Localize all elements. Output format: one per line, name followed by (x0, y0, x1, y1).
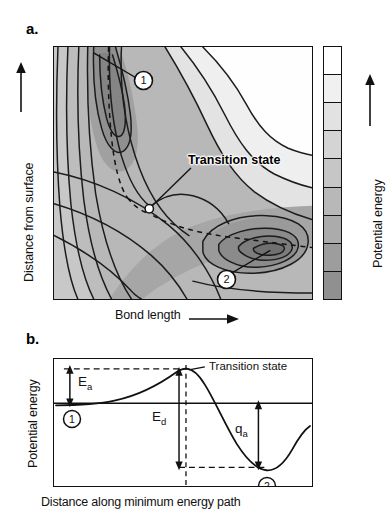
panel-a-y-axis-arrow-icon (14, 62, 28, 116)
energy-profile (54, 359, 312, 486)
colorbar-band (324, 188, 341, 216)
heat-of-adsorption-label: qa (235, 421, 248, 439)
activation-energy-symbol: E (78, 374, 87, 389)
panel-a-x-axis-arrow-icon (189, 311, 239, 329)
potential-energy-curve (56, 369, 310, 471)
panel-a-x-axis-label: Bond length (115, 308, 181, 322)
colorbar-band (324, 159, 341, 187)
panel-a-y-axis-label: Distance from surface (22, 163, 36, 282)
panel-b-state-2-label: 2 (257, 476, 277, 487)
colorbar (323, 46, 342, 300)
contour-surface (54, 47, 312, 299)
dissociation-energy-arrow (175, 367, 182, 470)
panel-b-letter: b. (26, 330, 39, 347)
panel-b-energy-profile-plot: Ea Ed qa Transition state 1 2 (53, 358, 313, 487)
panel-a-letter: a. (26, 20, 38, 37)
state-1-badge-label: 1 (133, 70, 154, 91)
state-1-badge[interactable]: 1 (133, 70, 154, 91)
colorbar-band (324, 103, 341, 131)
colorbar-band (324, 47, 341, 75)
colorbar-band (324, 131, 341, 159)
panel-b-transition-state-label: Transition state (209, 360, 287, 372)
colorbar-band (324, 75, 341, 103)
heat-of-adsorption-subscript: a (243, 428, 248, 439)
transition-state-marker[interactable] (145, 205, 153, 213)
dissociation-energy-subscript: d (161, 416, 166, 427)
figure-root: a. Distance from surface (0, 0, 386, 519)
state-2-badge[interactable]: 2 (216, 269, 237, 290)
dissociation-energy-label: Ed (152, 409, 166, 427)
colorbar-band (324, 272, 341, 299)
dissociation-energy-symbol: E (152, 409, 161, 424)
panel-b-y-axis-label: Potential energy (26, 379, 40, 468)
state-2-badge-label: 2 (216, 269, 237, 290)
heat-of-adsorption-symbol: q (235, 421, 243, 436)
activation-energy-subscript: a (87, 381, 92, 392)
panel-b-state-1-badge[interactable]: 1 (62, 409, 82, 429)
panel-b-state-2-badge[interactable]: 2 (257, 476, 277, 487)
panel-b-transition-state-leader-line (189, 367, 205, 370)
colorbar-band (324, 244, 341, 272)
colorbar-band (324, 216, 341, 244)
colorbar-arrow-icon (363, 74, 377, 130)
activation-energy-label: Ea (78, 374, 92, 392)
panel-b-state-1-label: 1 (62, 409, 82, 429)
heat-of-adsorption-arrow (255, 400, 262, 470)
activation-energy-arrow (66, 365, 73, 407)
panel-a-contour-plot: 1 2 Transition state (53, 46, 313, 300)
panel-a-transition-state-label: Transition state (188, 153, 280, 167)
panel-b-x-axis-label: Distance along minimum energy path (41, 495, 241, 509)
colorbar-label: Potential energy (371, 179, 385, 268)
